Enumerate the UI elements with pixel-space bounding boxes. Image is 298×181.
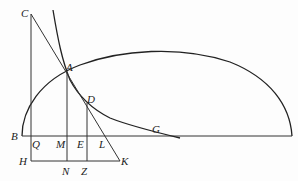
label-N: N — [61, 165, 70, 177]
geometry-figure: C A D G B Q M E L H N Z K — [0, 0, 298, 181]
label-A: A — [65, 61, 73, 73]
label-M: M — [55, 138, 66, 150]
hyperbola-curve — [53, 10, 180, 138]
label-B: B — [11, 130, 18, 142]
label-C: C — [21, 7, 29, 19]
label-G: G — [152, 123, 160, 135]
label-Q: Q — [32, 138, 40, 150]
label-Z: Z — [81, 165, 88, 177]
label-E: E — [76, 138, 84, 150]
label-D: D — [86, 93, 95, 105]
label-K: K — [120, 155, 129, 167]
label-H: H — [18, 155, 28, 167]
label-L: L — [98, 138, 105, 150]
figure-svg: C A D G B Q M E L H N Z K — [0, 0, 298, 181]
